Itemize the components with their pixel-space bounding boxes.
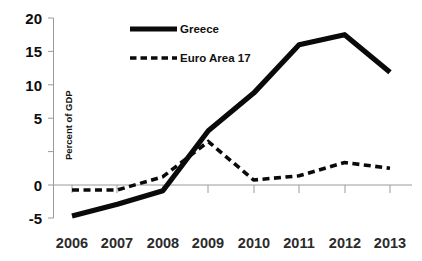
- x-tick-label: 2007: [101, 235, 133, 251]
- x-tick-label: 2009: [192, 235, 224, 251]
- y-tick-label: 5: [34, 110, 42, 127]
- y-tick-labels: 20 15 10 5 0 -5: [25, 10, 42, 227]
- x-tick-label: 2010: [238, 235, 270, 251]
- x-tick-label: 2012: [329, 235, 361, 251]
- chart-container: 20 15 10 5 0 -5 Percent of GDP: [0, 0, 422, 261]
- y-axis-title: Percent of GDP: [63, 90, 74, 160]
- line-chart-plot: 20 15 10 5 0 -5 Percent of GDP: [0, 0, 422, 261]
- y-tick-label: 10: [25, 77, 42, 94]
- x-tick-labels: 2006 2007 2008 2009 2010 2011 2012 2013: [56, 235, 406, 251]
- legend-label-euro-area-17: Euro Area 17: [180, 52, 251, 64]
- y-tick-label: 15: [25, 43, 42, 60]
- x-tick-label: 2008: [147, 235, 179, 251]
- y-tick-label: 20: [25, 10, 42, 27]
- chart-legend: Greece Euro Area 17: [130, 23, 251, 64]
- series-line-euro-area-17: [72, 142, 390, 190]
- y-tick-marks: [48, 18, 54, 218]
- legend-label-greece: Greece: [180, 23, 219, 35]
- x-tick-label: 2011: [283, 235, 314, 251]
- y-tick-label: 0: [34, 177, 42, 194]
- x-tick-label: 2006: [56, 235, 88, 251]
- y-tick-label: -5: [29, 210, 42, 227]
- x-tick-label: 2013: [374, 235, 406, 251]
